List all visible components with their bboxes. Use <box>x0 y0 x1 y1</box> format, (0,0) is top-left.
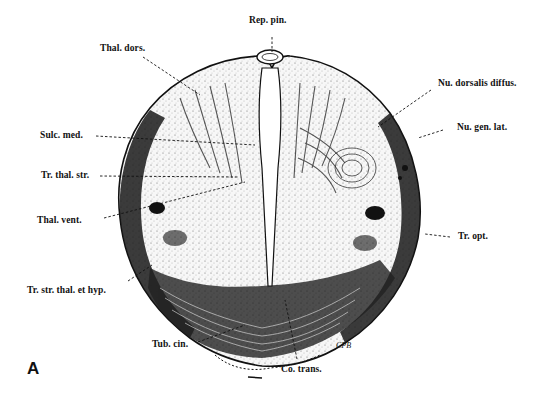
brain-section-illustration: CPB <box>0 0 551 401</box>
label-co-trans: Co. trans. <box>281 364 322 374</box>
panel-letter: A <box>27 359 39 379</box>
label-tr-str-thal-et-hyp: Tr. str. thal. et hyp. <box>27 285 106 295</box>
label-nu-gen-lat: Nu. gen. lat. <box>457 122 507 132</box>
label-tr-opt: Tr. opt. <box>458 231 488 241</box>
label-nu-dorsalis-diffus: Nu. dorsalis diffus. <box>438 78 517 88</box>
section-body <box>119 50 420 378</box>
artist-signature: CPB <box>336 341 351 350</box>
brain-section-figure: CPB Rep. pin. Thal. dors. Nu. dorsalis d… <box>0 0 551 401</box>
label-sulc-med: Sulc. med. <box>40 130 83 140</box>
label-thal-dors: Thal. dors. <box>100 43 145 53</box>
label-tub-cin: Tub. cin. <box>152 339 188 349</box>
label-rep-pin: Rep. pin. <box>249 15 287 25</box>
label-thal-vent: Thal. vent. <box>37 215 82 225</box>
label-tr-thal-str: Tr. thal. str. <box>41 170 89 180</box>
